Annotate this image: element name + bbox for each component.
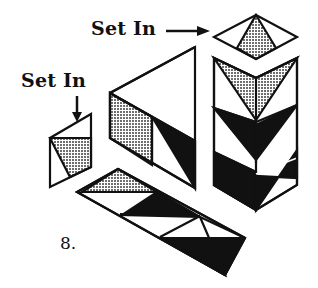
quilt-pieces-illustration — [0, 0, 318, 288]
set-in-label-left: Set In — [21, 69, 86, 91]
arrow-down-icon — [72, 96, 82, 122]
figure-number: 8. — [60, 233, 76, 253]
arrow-right-icon — [166, 26, 210, 36]
top-diamond-piece — [214, 15, 297, 59]
set-in-label-top: Set In — [91, 17, 156, 39]
quilt-diagram: Set In Set In 8. — [0, 0, 318, 288]
middle-triangle-piece — [110, 47, 195, 188]
right-column-piece — [214, 58, 297, 210]
left-small-piece — [50, 114, 91, 187]
